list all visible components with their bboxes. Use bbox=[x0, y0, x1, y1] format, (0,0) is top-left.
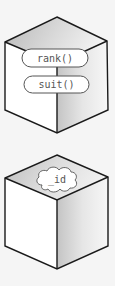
hidden-field-label: _id bbox=[48, 174, 66, 186]
method-label: rank() bbox=[37, 53, 73, 64]
method-label: suit() bbox=[38, 79, 74, 90]
method-pill-suit: suit() bbox=[24, 76, 89, 93]
diagram-canvas: rank() suit() _id bbox=[0, 0, 115, 286]
method-pill-rank: rank() bbox=[22, 49, 88, 67]
card-object-cube: rank() suit() bbox=[5, 17, 108, 133]
hidden-field-cloud: _id bbox=[37, 167, 77, 192]
id-object-cube: _id bbox=[5, 155, 108, 269]
